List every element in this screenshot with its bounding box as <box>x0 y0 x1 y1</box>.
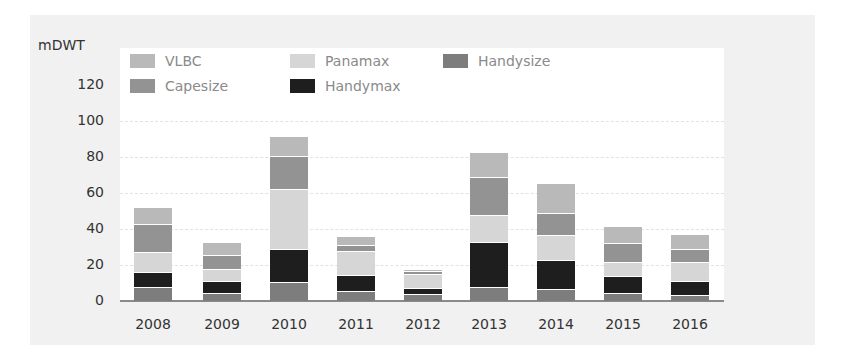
x-tick-label: 2011 <box>326 316 386 332</box>
bar-segment-handysize <box>270 282 308 301</box>
bar-segment-handymax <box>134 272 172 286</box>
legend-swatch <box>290 79 315 93</box>
bar-segment-panamax <box>671 262 709 281</box>
legend-label: Capesize <box>165 78 228 94</box>
x-tick-label: 2014 <box>526 316 586 332</box>
bar-segment-vlbc <box>470 152 508 177</box>
bar-segment-capesize <box>134 224 172 253</box>
bar-segment-handysize <box>404 294 442 301</box>
bar-segment-capesize <box>537 213 575 236</box>
x-tick-label: 2010 <box>259 316 319 332</box>
bar-segment-handymax <box>470 242 508 287</box>
bar-segment-vlbc <box>270 136 308 156</box>
x-tick-label: 2012 <box>393 316 453 332</box>
bar-segment-vlbc <box>671 234 709 248</box>
legend-swatch <box>130 54 155 68</box>
legend-item-vlbc: VLBC <box>130 53 202 69</box>
bar-segment-capesize <box>604 243 642 262</box>
bar-segment-capesize <box>203 255 241 269</box>
bar-segment-panamax <box>270 189 308 248</box>
y-tick-label: 0 <box>44 292 104 308</box>
x-tick-label: 2008 <box>123 316 183 332</box>
bar-segment-panamax <box>203 269 241 282</box>
bar-segment-handymax <box>404 288 442 293</box>
y-tick-label: 100 <box>44 112 104 128</box>
bar-segment-vlbc <box>203 242 241 256</box>
legend-label: Handymax <box>325 78 401 94</box>
bar-segment-handysize <box>337 291 375 301</box>
bar-segment-handysize <box>671 295 709 301</box>
bar-segment-vlbc <box>404 269 442 272</box>
legend-item-handymax: Handymax <box>290 78 401 94</box>
y-tick-label: 60 <box>44 184 104 200</box>
y-tick-label: 120 <box>44 76 104 92</box>
bar-segment-handymax <box>337 275 375 291</box>
legend-label: VLBC <box>165 53 202 69</box>
bar-segment-handysize <box>203 293 241 301</box>
bar-segment-vlbc <box>134 207 172 223</box>
bar-segment-capesize <box>337 245 375 250</box>
legend-item-handysize: Handysize <box>443 53 550 69</box>
legend-swatch <box>130 79 155 93</box>
bar-segment-handysize <box>537 289 575 301</box>
bar-segment-panamax <box>404 274 442 288</box>
x-tick-label: 2016 <box>660 316 720 332</box>
legend-label: Handysize <box>478 53 550 69</box>
legend-label: Panamax <box>325 53 389 69</box>
bar-segment-panamax <box>337 251 375 275</box>
bar-segment-panamax <box>604 262 642 276</box>
legend-swatch <box>290 54 315 68</box>
bar-segment-vlbc <box>604 226 642 243</box>
bar-segment-capesize <box>404 271 442 274</box>
bar-segment-handymax <box>203 281 241 293</box>
x-tick-label: 2015 <box>593 316 653 332</box>
gridline <box>120 193 724 194</box>
bar-segment-capesize <box>270 156 308 189</box>
gridline <box>120 121 724 122</box>
bar-segment-handysize <box>470 287 508 301</box>
y-axis-label: mDWT <box>38 37 85 53</box>
bar-segment-handymax <box>537 260 575 290</box>
bar-segment-panamax <box>134 252 172 272</box>
bar-segment-capesize <box>470 177 508 215</box>
x-tick-label: 2013 <box>459 316 519 332</box>
bar-segment-panamax <box>470 215 508 242</box>
bar-segment-vlbc <box>537 183 575 213</box>
bar-segment-handysize <box>604 293 642 301</box>
legend-swatch <box>443 54 468 68</box>
bar-segment-capesize <box>671 249 709 263</box>
bar-segment-handymax <box>671 281 709 295</box>
bar-segment-handysize <box>134 287 172 301</box>
y-tick-label: 20 <box>44 256 104 272</box>
legend-item-panamax: Panamax <box>290 53 389 69</box>
bar-segment-handymax <box>270 249 308 282</box>
bar-segment-vlbc <box>337 236 375 245</box>
y-tick-label: 80 <box>44 148 104 164</box>
gridline <box>120 157 724 158</box>
legend-item-capesize: Capesize <box>130 78 228 94</box>
bar-segment-panamax <box>537 235 575 259</box>
y-tick-label: 40 <box>44 220 104 236</box>
x-tick-label: 2009 <box>192 316 252 332</box>
bar-segment-handymax <box>604 276 642 293</box>
